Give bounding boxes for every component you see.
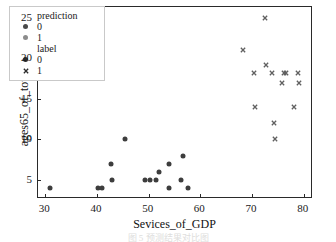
legend-entry-label: 0 — [37, 54, 42, 65]
data-point — [154, 177, 159, 182]
data-point — [283, 70, 289, 76]
x-axis-label: Sevices_of_GDP — [37, 218, 312, 230]
data-point — [295, 70, 301, 76]
x-axis-tick-label: 30 — [39, 203, 50, 214]
x-axis-tick — [149, 194, 150, 197]
data-point — [100, 186, 105, 191]
data-point — [291, 104, 297, 110]
y-axis-tick — [38, 99, 41, 100]
data-point — [110, 177, 115, 182]
data-point — [142, 177, 147, 182]
x-axis-tick — [45, 194, 46, 197]
data-point — [269, 70, 275, 76]
data-point — [167, 186, 172, 191]
data-point — [271, 120, 277, 126]
x-axis-tick — [304, 194, 305, 197]
data-point — [251, 70, 257, 76]
legend-dot-marker-icon — [14, 35, 37, 40]
legend-entry-label: 1 — [37, 32, 42, 43]
data-point — [252, 104, 258, 110]
x-axis-tick-label: 70 — [246, 203, 257, 214]
data-point — [156, 169, 161, 174]
legend-entry[interactable]: 1 — [14, 32, 100, 43]
scatter-plot-figure: ages65_of_total Sevices_of_GDP predictio… — [0, 0, 336, 242]
data-point — [296, 80, 302, 86]
y-axis-tick-label: 10 — [12, 133, 32, 144]
figure-caption: 图 5 预测结果对比图 — [0, 233, 336, 242]
legend-entry[interactable]: 0 — [14, 21, 100, 32]
x-axis-tick-label: 60 — [194, 203, 205, 214]
x-axis-tick-label: 80 — [297, 203, 308, 214]
data-point — [48, 186, 53, 191]
x-axis-tick-label: 40 — [90, 203, 101, 214]
y-axis-tick — [38, 180, 41, 181]
data-point — [109, 161, 114, 166]
data-point — [148, 177, 153, 182]
legend-dot-marker-icon — [14, 24, 37, 29]
data-point — [185, 186, 190, 191]
data-point — [279, 80, 285, 86]
legend-entry-label: 1 — [37, 65, 42, 76]
x-axis-tick — [200, 194, 201, 197]
data-point — [123, 137, 128, 142]
data-point — [178, 177, 183, 182]
data-point — [262, 15, 268, 21]
legend-entry-label: 0 — [37, 21, 42, 32]
x-axis-tick — [252, 194, 253, 197]
y-axis-tick-label: 15 — [12, 92, 32, 103]
data-point — [263, 62, 269, 68]
legend-entry[interactable]: 1 — [14, 65, 100, 76]
x-axis-tick — [97, 194, 98, 197]
data-point — [240, 47, 246, 53]
x-axis-tick-label: 50 — [142, 203, 153, 214]
y-axis-tick-label: 25 — [12, 11, 32, 22]
y-axis-tick — [38, 139, 41, 140]
legend-x-marker-icon — [14, 68, 37, 74]
data-point — [166, 161, 171, 166]
y-axis-tick-label: 5 — [12, 173, 32, 184]
y-axis-tick-label: 20 — [12, 52, 32, 63]
data-point — [181, 153, 186, 158]
data-point — [272, 136, 278, 142]
